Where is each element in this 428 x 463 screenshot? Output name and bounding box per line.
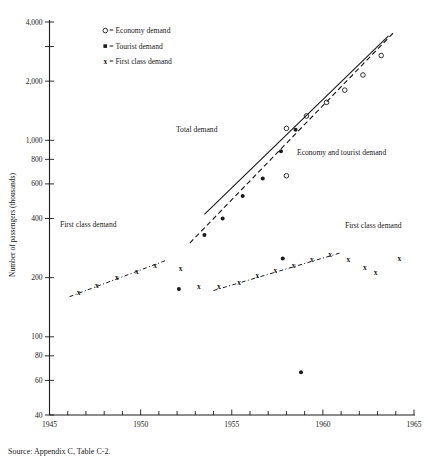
data-point <box>241 194 245 198</box>
chart-plot-area: 4060801002004006008001,0002,0004,000 194… <box>0 0 428 463</box>
data-point: x <box>374 268 378 277</box>
data-point: x <box>197 282 201 291</box>
y-tick-label: 200 <box>31 273 43 282</box>
y-tick-label: 400 <box>31 214 43 223</box>
y-tick-label: 60 <box>35 376 43 385</box>
data-point: x <box>135 267 139 276</box>
y-tick-labels: 4060801002004006008001,0002,0004,000 <box>26 18 43 420</box>
y-tick-label: 100 <box>31 332 43 341</box>
x-tick-labels: 19451950195519601965 <box>42 420 422 429</box>
data-point: x <box>310 255 314 264</box>
legend-item-label: Economy demand <box>115 26 170 35</box>
chart-annotation: First class demand <box>60 220 117 229</box>
data-point <box>294 128 298 132</box>
source-note: Source: Appendix C, Table C-2. <box>8 440 110 458</box>
data-point: x <box>77 288 81 297</box>
data-point: x <box>115 273 119 282</box>
chart-annotation: Total demand <box>176 125 218 134</box>
legend-separator: = <box>109 42 113 51</box>
data-point <box>361 73 366 78</box>
x-tick-label: 1950 <box>133 420 148 429</box>
legend-group: =Economy demand=Tourist demandx=First cl… <box>103 26 172 66</box>
data-point <box>284 173 289 178</box>
data-point: x <box>363 263 367 272</box>
legend-marker-filled-square <box>103 44 107 48</box>
y-tick-label: 80 <box>35 351 43 360</box>
axes-group <box>45 20 415 415</box>
y-tick-label: 800 <box>31 155 43 164</box>
data-point <box>379 53 384 58</box>
y-tick-label: 2,000 <box>26 77 43 86</box>
x-tick-label: 1945 <box>42 420 57 429</box>
chart-annotation: First class demand <box>345 221 402 230</box>
data-point <box>342 88 347 93</box>
data-point <box>177 287 181 291</box>
y-tick-label: 1,000 <box>26 136 43 145</box>
source-note-text: Source: Appendix C, Table C-2. <box>8 447 110 456</box>
y-axis-title-group: Number of passengers (thousands) <box>8 173 17 277</box>
data-point: x <box>292 261 296 270</box>
data-point <box>284 126 289 131</box>
legend-marker-open-circle <box>103 28 108 33</box>
annotations-group: Total demandEconomy and tourist demandFi… <box>60 125 402 230</box>
y-tick-label: 4,000 <box>26 18 43 27</box>
y-tick-label: 40 <box>35 411 43 420</box>
x-tick-label: 1955 <box>224 420 239 429</box>
data-point <box>221 217 225 221</box>
legend-separator: = <box>109 57 113 66</box>
data-point: x <box>237 278 241 287</box>
data-point: x <box>328 250 332 259</box>
data-point: x <box>179 264 183 273</box>
data-point: x <box>95 281 99 290</box>
data-point: x <box>398 254 402 263</box>
legend-separator: = <box>109 26 113 35</box>
y-axis-title: Number of passengers (thousands) <box>8 173 17 277</box>
legend-item-label: Tourist demand <box>115 42 163 51</box>
x-tick-label: 1965 <box>407 420 422 429</box>
data-point: x <box>217 282 221 291</box>
data-point <box>202 233 206 237</box>
data-point <box>261 176 265 180</box>
chart-figure: 4060801002004006008001,0002,0004,000 194… <box>0 0 428 463</box>
legend-marker-x-cross: x <box>104 57 108 66</box>
data-point: x <box>153 261 157 270</box>
y-tick-label: 600 <box>31 179 43 188</box>
data-point: x <box>255 271 259 280</box>
trendline <box>204 36 388 214</box>
data-point <box>281 257 285 261</box>
trendline <box>190 32 394 243</box>
legend-item-label: First class demand <box>115 57 172 66</box>
data-point <box>299 370 303 374</box>
data-point: x <box>347 255 351 264</box>
trendlines-group <box>70 32 394 297</box>
data-point: x <box>274 266 278 275</box>
chart-annotation: Economy and tourist demand <box>297 148 386 157</box>
data-point <box>279 149 283 153</box>
data-points-group: xxxxxxxxxxxxxxxxxx <box>77 53 402 374</box>
x-tick-label: 1960 <box>315 420 330 429</box>
data-point <box>324 100 329 105</box>
